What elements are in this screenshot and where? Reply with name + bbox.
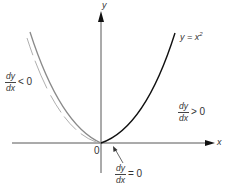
plot-svg <box>0 0 225 189</box>
curve-equation-label: y = x2 <box>180 31 203 42</box>
derivative-fraction: dy dx <box>178 102 189 122</box>
equation-lhs: y = x <box>180 32 199 42</box>
origin-label: 0 <box>94 146 100 156</box>
pointer-line <box>115 149 123 163</box>
x-axis-label: x <box>217 138 222 147</box>
curve-right-branch <box>101 33 175 143</box>
annotation-zero-slope: dy dx = 0 <box>115 164 142 184</box>
derivative-diagram: y x 0 y = x2 dy dx < 0 dy dx > 0 dy dx =… <box>0 0 225 189</box>
pointer-arrow-icon <box>113 146 118 152</box>
derivative-fraction: dy dx <box>115 164 126 184</box>
x-axis-arrow-icon <box>205 140 215 146</box>
curve-left-branch <box>30 32 101 143</box>
annotation-positive-slope: dy dx > 0 <box>178 102 205 122</box>
equation-exponent: 2 <box>199 31 202 37</box>
derivative-fraction: dy dx <box>5 72 16 92</box>
y-axis-arrow-icon <box>98 11 104 22</box>
y-axis-label: y <box>102 1 107 10</box>
annotation-negative-slope: dy dx < 0 <box>5 72 32 92</box>
